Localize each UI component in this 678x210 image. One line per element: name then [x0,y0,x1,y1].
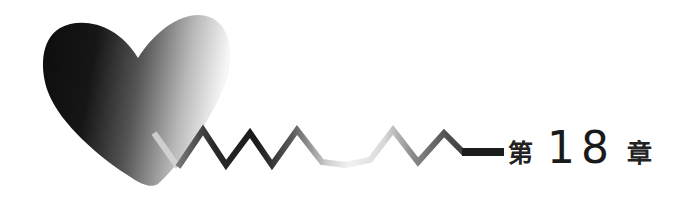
chapter-number: 18 [547,126,615,170]
heart-icon [43,15,230,186]
chapter-prefix: 第 [508,141,533,166]
heartbeat-end-dash [462,148,504,156]
chapter-suffix: 章 [627,141,652,166]
chapter-ornament [0,0,678,210]
heartbeat-line-icon [178,130,503,167]
chapter-heading: 第 18 章 [508,124,652,170]
